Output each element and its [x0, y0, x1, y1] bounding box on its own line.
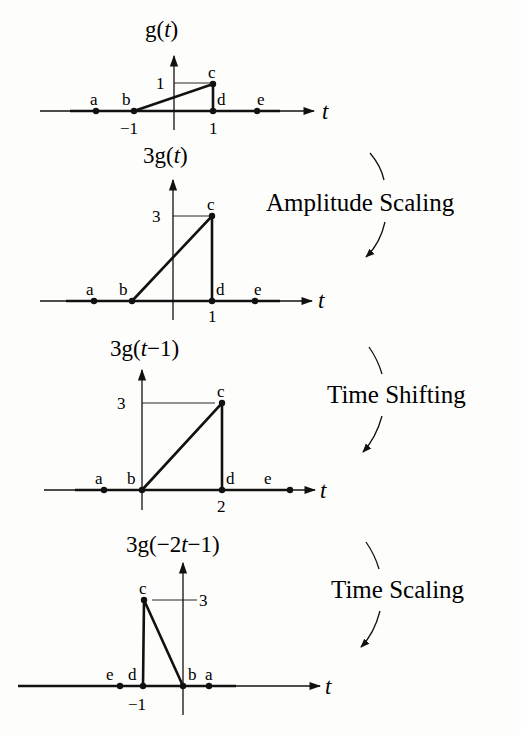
axis-label-t: t [325, 674, 332, 699]
operation-label: Time Scaling [331, 576, 465, 603]
label-c: c [139, 579, 147, 598]
label-e: e [254, 280, 262, 299]
panel-3g-neg2t-minus-1: 3g(−2t−1) e d c b a 3 −1 t [18, 532, 332, 715]
signal-curve [132, 216, 212, 301]
curved-arrow-icon [361, 611, 380, 647]
point-b [139, 487, 145, 493]
signal-curve [142, 403, 222, 490]
point-b [131, 108, 137, 114]
x-tick-label: 2 [217, 497, 226, 516]
label-a: a [95, 469, 103, 488]
operation-label: Amplitude Scaling [266, 189, 455, 216]
x-tick-label: 1 [208, 307, 217, 326]
label-e: e [264, 469, 272, 488]
label-d: d [128, 665, 137, 684]
curved-arrow-top [370, 153, 384, 180]
label-b: b [119, 280, 128, 299]
y-tick-label: 1 [156, 74, 165, 93]
signal-transformation-diagram: g(t) a b c d e 1 −1 1 t 3g(t) a b c [0, 0, 521, 735]
point-e [287, 487, 293, 493]
axis-label-t: t [320, 478, 327, 503]
label-d: d [226, 469, 235, 488]
label-a: a [86, 280, 94, 299]
label-c: c [217, 382, 225, 401]
label-a: a [90, 90, 98, 109]
panel-3g-t: 3g(t) a b c d e 3 1 t [40, 143, 325, 326]
operation-amplitude-scaling: Amplitude Scaling [266, 153, 455, 257]
panel-title: 3g(t−1) [110, 336, 179, 361]
y-tick-label: 3 [152, 207, 161, 226]
point-d [210, 108, 216, 114]
panel-title: 3g(−2t−1) [126, 532, 220, 557]
label-c: c [207, 195, 215, 214]
x-tick-label-1: 1 [209, 119, 218, 138]
curved-arrow-icon [366, 222, 385, 257]
label-b: b [188, 665, 197, 684]
panel-3g-t-minus-1: 3g(t−1) a b c d e 3 2 t [44, 336, 327, 516]
curved-arrow-top [366, 542, 379, 569]
panel-g-t: g(t) a b c d e 1 −1 1 t [40, 17, 329, 138]
y-tick-label: 3 [199, 591, 208, 610]
label-d: d [216, 280, 225, 299]
label-d: d [217, 90, 226, 109]
point-d [209, 298, 215, 304]
curved-arrow-icon [363, 416, 382, 452]
operation-time-shifting: Time Shifting [327, 347, 466, 452]
x-tick-label-neg1: −1 [120, 119, 138, 138]
axis-label-t: t [322, 99, 329, 124]
label-e: e [257, 90, 265, 109]
label-a: a [205, 665, 213, 684]
point-d [219, 487, 225, 493]
point-b [180, 683, 186, 689]
label-c: c [208, 63, 216, 82]
x-tick-label: −1 [128, 695, 146, 714]
operation-label: Time Shifting [327, 381, 466, 408]
point-b [129, 298, 135, 304]
panel-title: g(t) [145, 17, 178, 42]
point-d [140, 683, 146, 689]
y-tick-label: 3 [117, 394, 126, 413]
operation-time-scaling: Time Scaling [331, 542, 465, 647]
label-b: b [127, 469, 136, 488]
label-b: b [122, 90, 131, 109]
curved-arrow-top [369, 347, 382, 374]
point-e [117, 683, 123, 689]
axis-label-t: t [318, 288, 325, 313]
signal-curve [143, 600, 183, 686]
label-e: e [106, 665, 114, 684]
panel-title: 3g(t) [143, 143, 188, 168]
